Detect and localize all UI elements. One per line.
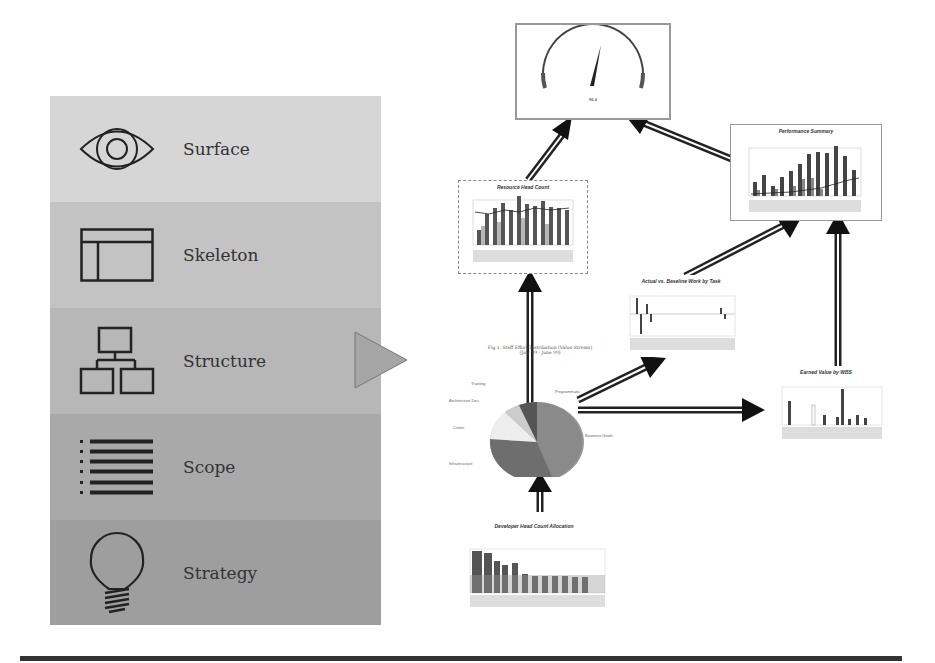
svg-text:Training: Training bbox=[471, 381, 485, 386]
svg-text:Programmatic: Programmatic bbox=[555, 389, 580, 394]
developer-head-count-chart: Developer Head Count Allocation bbox=[458, 520, 610, 612]
earned-value-chart: Earned Value by WBS bbox=[768, 366, 884, 446]
performance-summary-chart: Performance Summary bbox=[730, 124, 882, 221]
svg-text:Architecture Dev.: Architecture Dev. bbox=[449, 398, 479, 403]
gauge-chart: 96.4 bbox=[515, 23, 671, 120]
svg-text:Infrastructure: Infrastructure bbox=[449, 461, 473, 466]
actual-vs-baseline-chart: Actual vs. Baseline Work by Task bbox=[622, 275, 740, 357]
resource-head-count-chart: Resource Head Count bbox=[458, 180, 588, 274]
svg-text:Business Goals: Business Goals bbox=[585, 433, 613, 438]
svg-text:Crises: Crises bbox=[453, 425, 464, 430]
svg-text:96.4: 96.4 bbox=[589, 97, 598, 102]
staff-effort-pie-chart: Fig 1. Staff Effort Distribution (Value … bbox=[445, 345, 625, 480]
bottom-rule bbox=[20, 656, 902, 661]
